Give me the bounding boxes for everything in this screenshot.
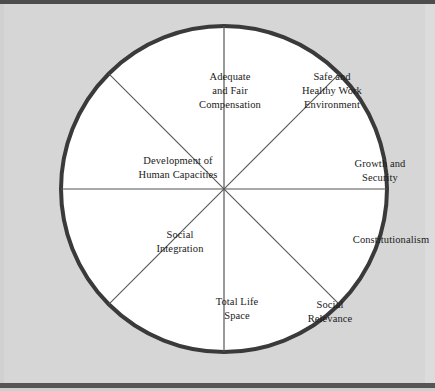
figure-page: Adequate and Fair Compensation Safe and …: [0, 0, 435, 391]
page-right-margin: [425, 4, 435, 383]
wheel-svg: [58, 21, 390, 357]
page-top-edge-band: [0, 0, 435, 4]
quality-of-work-life-wheel: Adequate and Fair Compensation Safe and …: [58, 21, 390, 357]
page-left-margin: [0, 4, 4, 383]
